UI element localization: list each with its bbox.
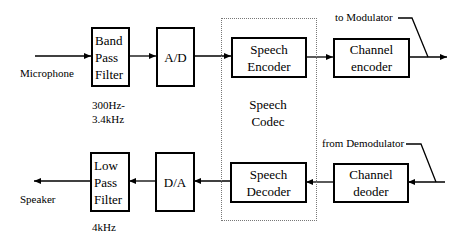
low-pass-filter-block: Low Pass Filter [90,152,130,212]
encoder-line-2: Encoder [247,58,290,75]
decoder-line-1: Speech [250,166,288,183]
from-demodulator-leader [406,144,436,182]
channel-decoder-line-1: Channel [349,166,392,183]
codec-line-2: Codec [228,113,308,130]
da-converter-block: D/A [155,152,195,212]
ad-converter-block: A/D [156,27,195,87]
microphone-label: Microphone [20,67,74,79]
lpf-line-2: Pass [94,174,117,191]
channel-encoder-line-1: Channel [350,41,393,58]
da-label: D/A [164,174,186,191]
lpf-line-1: Low [94,157,118,174]
channel-encoder-line-2: encoder [351,58,392,75]
channel-decoder-block: Channel deoder [333,163,409,203]
from-demodulator-label: from Demodulator [322,137,404,149]
ad-label: A/D [164,49,186,66]
bpf-line-2: Pass [95,49,118,66]
bpf-note-line-2: 3.4kHz [92,112,125,126]
speech-decoder-block: Speech Decoder [230,162,307,203]
channel-encoder-block: Channel encoder [333,38,410,78]
channel-decoder-line-2: deoder [353,183,388,200]
bpf-line-3: Filter [95,66,123,83]
bpf-note-line-1: 300Hz- [92,98,125,112]
to-modulator-label: to Modulator [335,11,393,23]
speech-codec-label: Speech Codec [228,96,308,130]
codec-line-1: Speech [228,96,308,113]
lpf-line-3: Filter [94,191,122,208]
band-pass-filter-block: Band Pass Filter [91,27,130,87]
encoder-line-1: Speech [250,41,288,58]
bpf-cutoff-note: 300Hz- 3.4kHz [92,98,125,126]
speaker-label: Speaker [20,193,55,205]
speech-encoder-block: Speech Encoder [231,37,307,78]
lpf-cutoff-note: 4kHz [92,221,116,233]
decoder-line-2: Decoder [246,183,290,200]
bpf-line-1: Band [95,32,122,49]
